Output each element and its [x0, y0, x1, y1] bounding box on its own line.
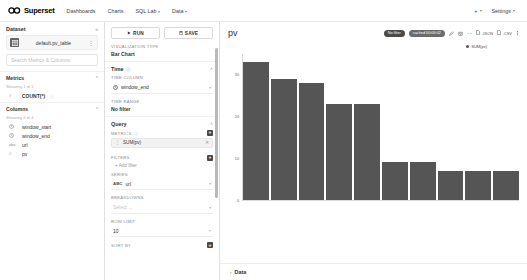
filters-control: FILTERS + + Add filter	[105, 155, 219, 172]
chevron-up-icon[interactable]: ^	[96, 106, 98, 112]
save-button[interactable]: SAVE	[164, 27, 213, 39]
close-icon[interactable]: ✕	[205, 140, 209, 145]
y-axis: 0102030	[228, 54, 242, 201]
chevron-down-icon: ▾	[209, 181, 211, 186]
x-label-slot: /analytics/overview	[243, 197, 269, 237]
chart-plot-area: 0102030	[228, 54, 519, 201]
dataset-selector[interactable]: default.pv_table ⋮	[6, 35, 98, 50]
dataset-name: default.pv_table	[23, 40, 84, 46]
breakdowns-select[interactable]: Select ... ▾	[111, 202, 213, 214]
x-label-slot: /reports/monthly	[493, 197, 519, 237]
run-button-label: RUN	[133, 31, 144, 36]
edit-pencil-icon[interactable]	[449, 31, 454, 36]
table-icon	[10, 38, 19, 47]
column-item-window-end[interactable]: window_end	[6, 131, 98, 140]
run-button[interactable]: RUN	[111, 27, 160, 39]
add-filter-link[interactable]: + Add filter	[111, 163, 213, 168]
metric-label: COUNT(*)	[22, 93, 45, 99]
columns-section-header[interactable]: Columns ^	[6, 106, 98, 112]
chevron-down-icon: ▾	[209, 228, 211, 233]
query-section-header[interactable]: Query ˄	[105, 116, 219, 130]
download-csv-button[interactable]: .CSV	[497, 30, 512, 36]
dataset-panel-title: Dataset	[6, 26, 25, 32]
filter-badge[interactable]: No filter	[384, 30, 405, 37]
series-label: SERIES	[111, 172, 213, 177]
time-range-control: TIME RANGE No filter	[105, 99, 219, 116]
more-horizontal-icon[interactable]	[467, 32, 472, 35]
nav-link-data[interactable]: Data ▾	[172, 8, 187, 14]
metric-chip-sum-pv[interactable]: ⋮ SUM(pv) ✕	[111, 138, 213, 148]
column-item-url[interactable]: abc url	[6, 140, 98, 149]
column-label: window_end	[22, 133, 50, 139]
x-label-slot: /help/support	[465, 197, 491, 237]
sort-by-label: SORT BY	[111, 243, 131, 248]
clock-icon	[9, 133, 18, 138]
chevron-up-icon[interactable]: ^	[96, 75, 98, 81]
nav-link-dashboards[interactable]: Dashboards	[67, 8, 96, 14]
column-label: url	[22, 142, 28, 148]
search-metrics-columns-input[interactable]: Search Metrics & Columns	[6, 54, 98, 66]
metrics-control-header: METRICS ⓘ +	[111, 130, 213, 136]
settings-label: Settings	[492, 8, 511, 14]
time-section-header[interactable]: Time ⓘ ˄	[105, 61, 219, 75]
add-filter-button[interactable]: +	[207, 155, 213, 161]
csv-label: .CSV	[503, 31, 512, 36]
dataset-more-icon[interactable]: ⋮	[88, 41, 94, 45]
time-column-select[interactable]: window_end ▾	[111, 82, 213, 94]
bar-slot	[382, 54, 408, 200]
share-camera-icon[interactable]	[458, 31, 463, 36]
control-panel-scrollbar[interactable]	[215, 48, 218, 198]
x-label-slot: /checkout/cart	[354, 197, 380, 237]
nav-link-sql-lab[interactable]: SQL Lab ▾	[135, 8, 160, 14]
nav-link-charts[interactable]: Charts	[108, 8, 124, 14]
abc-type-icon: abc	[9, 142, 18, 147]
dataset-panel-header: Dataset »	[0, 22, 104, 35]
visualization-type-control[interactable]: VISUALIZATION TYPE Bar Chart	[105, 44, 219, 61]
chart-title[interactable]: pv	[228, 28, 238, 38]
columns-showing-count: Showing 4 of 4	[6, 115, 98, 120]
metric-chip-label: SUM(pv)	[123, 140, 202, 145]
action-button-row: RUN SAVE	[105, 22, 219, 44]
nav-links: Dashboards Charts SQL Lab ▾ Data ▾	[67, 8, 187, 14]
settings-menu[interactable]: Settings ▾	[492, 8, 515, 14]
chart-header: pv No filter cached 00:00:02	[220, 22, 527, 42]
chart-legend: SUM(pv)	[466, 44, 487, 49]
chevron-down-icon: ▾	[513, 8, 515, 13]
data-section-toggle[interactable]: › Data	[220, 263, 527, 280]
bar-slot	[354, 54, 380, 200]
row-limit-control: ROW LIMIT 10 ▾	[105, 219, 219, 243]
filters-control-label: FILTERS	[111, 155, 130, 160]
series-select[interactable]: ABC url ▾	[111, 179, 213, 191]
bar-slot	[438, 54, 464, 200]
columns-section: Columns ^ Showing 4 of 4 window_start	[0, 102, 104, 160]
column-item-pv[interactable]: # pv	[6, 149, 98, 158]
time-range-value[interactable]: No filter	[111, 106, 213, 112]
bar-slot	[299, 54, 325, 200]
chevron-up-icon[interactable]: ˄	[210, 66, 213, 72]
legend-label[interactable]: SUM(pv)	[471, 44, 487, 49]
nav-link-sql-lab-label: SQL Lab	[135, 8, 156, 14]
drag-handle-icon[interactable]: ⋮	[115, 140, 120, 145]
metrics-section-header[interactable]: Metrics ^	[6, 75, 98, 81]
add-metric-button[interactable]: +	[207, 130, 213, 136]
number-type-icon: #	[9, 151, 18, 156]
chevron-up-icon[interactable]: ˄	[210, 121, 213, 127]
download-json-button[interactable]: .JSON	[476, 30, 493, 36]
cached-badge[interactable]: cached 00:00:02	[409, 30, 445, 37]
add-sort-button[interactable]: +	[207, 242, 213, 248]
row-limit-label: ROW LIMIT	[111, 219, 213, 224]
chevron-down-icon: ▾	[209, 205, 211, 210]
brand-logo[interactable]: Superset	[8, 6, 55, 15]
column-item-window-start[interactable]: window_start	[6, 122, 98, 131]
bar-slot	[243, 54, 269, 200]
metrics-control-label: METRICS ⓘ	[111, 130, 138, 136]
collapse-panel-icon[interactable]: »	[95, 26, 98, 32]
more-vertical-icon[interactable]	[516, 30, 519, 36]
row-limit-select[interactable]: 10 ▾	[111, 226, 213, 238]
play-icon	[127, 31, 131, 35]
new-item-button[interactable]: + ▾	[474, 8, 481, 14]
sort-by-control-header: SORT BY +	[111, 242, 213, 248]
x-label-slot: /user/profile	[326, 197, 352, 237]
metric-item-count[interactable]: # COUNT(*) ⓘ	[6, 91, 98, 100]
query-section-title: Query	[111, 121, 127, 127]
